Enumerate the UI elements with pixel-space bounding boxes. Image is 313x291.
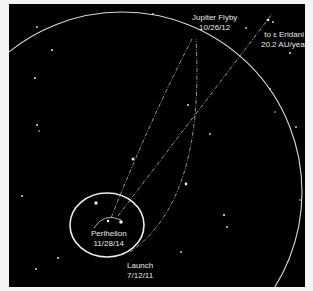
destination-speed: 20.2 AU/year xyxy=(261,40,305,50)
starfield xyxy=(21,13,301,270)
launch-label: Launch 7/12/11 xyxy=(127,261,153,281)
trajectory-markers xyxy=(94,19,269,224)
perihelion-arc xyxy=(94,217,121,228)
perihelion-title: Perihelion xyxy=(91,229,127,239)
sun-icon xyxy=(107,220,109,222)
inbound-trajectory xyxy=(111,39,192,218)
jupiter-flyby-date: 10/26/12 xyxy=(192,23,237,33)
jupiter-orbit xyxy=(9,12,302,287)
escape-path xyxy=(118,14,272,216)
trajectory-diagram-panel: Jupiter Flyby 10/26/12 to ε Eridani 20.2… xyxy=(9,4,305,287)
jupiter-flyby-label: Jupiter Flyby 10/26/12 xyxy=(192,13,237,33)
outbound-trajectory xyxy=(130,39,197,252)
perihelion-label: Perihelion 11/28/14 xyxy=(91,229,127,249)
perihelion-date: 11/28/14 xyxy=(91,239,127,249)
launch-title: Launch xyxy=(127,261,153,271)
launch-date: 7/12/11 xyxy=(127,271,153,281)
jupiter-flyby-title: Jupiter Flyby xyxy=(192,13,237,23)
destination-title: to ε Eridani xyxy=(261,30,305,40)
destination-label: to ε Eridani 20.2 AU/year xyxy=(261,30,305,50)
